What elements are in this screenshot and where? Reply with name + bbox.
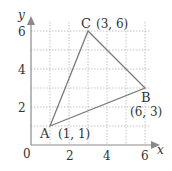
x-tick-6: 6 [141,149,149,163]
point-c-name: C [81,16,91,31]
y-tick-2: 2 [18,101,26,115]
x-axis-label: x [157,143,164,157]
x-tick-2: 2 [66,149,74,163]
x-tick-4: 4 [103,149,111,163]
point-a-name: A [39,126,50,141]
point-c-coords: (3, 6) [96,17,128,31]
origin-label: 0 [23,147,31,161]
y-axis-arrow-icon [27,16,35,25]
y-axis-label: y [17,8,25,22]
y-tick-6: 6 [18,25,26,39]
coordinate-diagram: y x 0 2 4 6 2 4 6 A (1, 1) B (6, 3) C (3… [0,0,172,171]
y-tick-4: 4 [18,63,26,77]
point-a-coords: (1, 1) [58,127,90,141]
point-b-coords: (6, 3) [130,105,162,119]
point-b-name: B [141,90,151,105]
